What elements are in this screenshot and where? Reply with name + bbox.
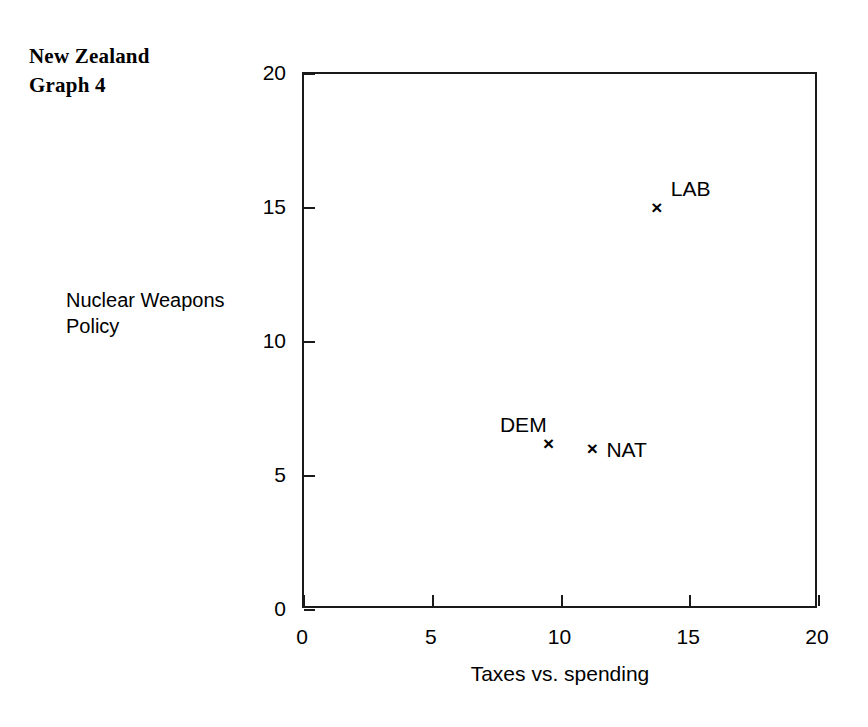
x-tick-0 — [303, 595, 305, 606]
y-tick-label-10: 10 — [216, 330, 286, 351]
x-tick-label-10: 10 — [525, 626, 595, 647]
x-tick-20 — [818, 595, 820, 606]
x-tick-label-20: 20 — [782, 626, 852, 647]
data-point-label-dem: DEM — [500, 414, 547, 435]
figure-title: New Zealand Graph 4 — [29, 42, 229, 100]
y-tick-15 — [304, 207, 315, 209]
y-tick-label-5: 5 — [216, 464, 286, 485]
x-tick-label-5: 5 — [396, 626, 466, 647]
plot-area: ×LAB×DEM×NAT — [302, 72, 817, 608]
marker-x-icon: × — [542, 433, 556, 455]
x-tick-10 — [561, 595, 563, 606]
data-point-label-lab: LAB — [671, 178, 711, 199]
x-tick-label-0: 0 — [267, 626, 337, 647]
x-tick-label-15: 15 — [653, 626, 723, 647]
y-tick-0 — [304, 609, 315, 611]
x-axis-title: Taxes vs. spending — [302, 662, 818, 686]
y-tick-label-15: 15 — [216, 196, 286, 217]
y-tick-label-0: 0 — [216, 598, 286, 619]
y-tick-10 — [304, 341, 315, 343]
data-point-label-nat: NAT — [606, 439, 646, 460]
y-axis-title: Nuclear Weapons Policy — [66, 287, 226, 339]
marker-x-icon: × — [650, 197, 664, 219]
x-tick-5 — [432, 595, 434, 606]
marker-x-icon: × — [585, 438, 599, 460]
x-tick-15 — [689, 595, 691, 606]
y-tick-20 — [304, 73, 315, 75]
chart-page: New Zealand Graph 4 Nuclear Weapons Poli… — [0, 0, 868, 727]
y-tick-label-20: 20 — [216, 62, 286, 83]
y-tick-5 — [304, 475, 315, 477]
